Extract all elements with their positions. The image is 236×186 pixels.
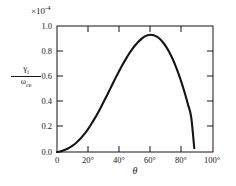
x-axis-ticks <box>88 146 181 152</box>
x-axis-ticks-top <box>88 26 181 32</box>
chart-figure: ×10-4 γi ωce θ 1.0 0.8 0.6 0.4 0.2 0.0 0… <box>0 0 236 186</box>
plot-area <box>0 0 236 186</box>
data-curve <box>57 35 194 152</box>
y-axis-ticks <box>57 51 63 126</box>
y-axis-ticks-right <box>207 51 213 126</box>
